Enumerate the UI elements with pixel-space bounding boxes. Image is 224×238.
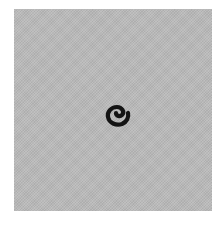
spiral-icon xyxy=(100,95,132,131)
figure-canvas xyxy=(0,0,224,238)
